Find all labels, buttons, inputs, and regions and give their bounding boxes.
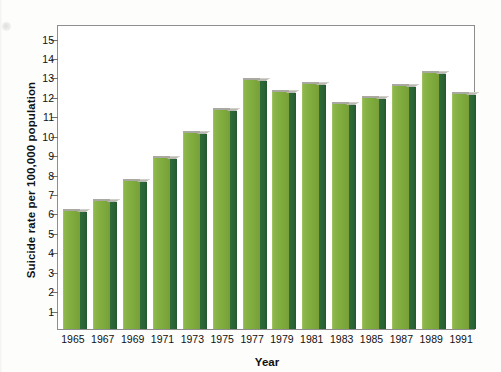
y-axis-tick-label: 14 xyxy=(42,53,54,65)
bar xyxy=(243,78,267,329)
y-axis-tick-label: 9 xyxy=(48,150,54,162)
y-axis-tick-label: 15 xyxy=(42,34,54,46)
x-axis-tick-label: 1987 xyxy=(390,333,413,345)
bar-side-face xyxy=(439,74,446,329)
bar-side-face xyxy=(140,182,147,329)
bar xyxy=(302,82,326,329)
bar-side-face xyxy=(110,202,117,329)
bar-side-face xyxy=(349,105,356,329)
y-axis-tick-label: 1 xyxy=(48,306,54,318)
chart-figure: Suicide rate per 100,000 population 1234… xyxy=(0,0,501,372)
bar-front-face xyxy=(243,78,260,329)
y-axis-tick-label: 10 xyxy=(42,131,54,143)
bar-side-face xyxy=(80,212,87,329)
bar-front-face xyxy=(153,156,170,329)
x-axis-tick-label: 1979 xyxy=(270,333,293,345)
x-axis-tick-label: 1965 xyxy=(61,333,84,345)
bar xyxy=(452,92,476,329)
bar-top-edge xyxy=(332,102,349,104)
bar xyxy=(272,90,296,329)
x-axis-tick-label: 1967 xyxy=(91,333,114,345)
scan-edge-artifact xyxy=(0,0,3,372)
bar xyxy=(213,108,237,329)
bar-top-edge xyxy=(213,108,230,110)
x-axis-tick-label: 1983 xyxy=(330,333,353,345)
bar-front-face xyxy=(362,96,379,329)
bar-side-face xyxy=(200,134,207,329)
y-axis-tick-label: 4 xyxy=(48,247,54,259)
bar-front-face xyxy=(272,90,289,329)
bar xyxy=(392,84,416,329)
bar-front-face xyxy=(63,209,80,329)
bar-top-edge xyxy=(362,96,379,98)
bar xyxy=(422,71,446,329)
bar-top-edge xyxy=(123,179,140,181)
plot-inner xyxy=(58,26,474,329)
bar xyxy=(332,102,356,329)
y-axis-tick-label: 7 xyxy=(48,189,54,201)
bar-top-edge xyxy=(272,90,289,92)
bar xyxy=(123,179,147,329)
bar-top-edge xyxy=(183,131,200,133)
y-axis-tick-label: 13 xyxy=(42,72,54,84)
bar-front-face xyxy=(332,102,349,329)
bar-side-face xyxy=(469,95,476,329)
y-axis-tick-label: 11 xyxy=(43,111,54,123)
bar-top-edge xyxy=(452,92,469,94)
bar-top-edge xyxy=(63,209,80,211)
y-axis-tick-label: 12 xyxy=(42,92,54,104)
y-axis-tick-label: 8 xyxy=(48,170,54,182)
y-axis-tick-label: 2 xyxy=(48,286,54,298)
x-axis-tick-label: 1971 xyxy=(151,333,174,345)
x-axis-tick-label: 1991 xyxy=(449,333,472,345)
bar-side-face xyxy=(409,87,416,329)
y-axis-tick-label: 6 xyxy=(48,208,54,220)
plot-area: 123456789101112131415 196519671969197119… xyxy=(57,25,475,330)
bar-side-face xyxy=(379,99,386,329)
x-axis-tick-label: 1981 xyxy=(300,333,323,345)
y-axis-title: Suicide rate per 100,000 population xyxy=(25,55,37,305)
bar-side-face xyxy=(260,81,267,329)
bar-front-face xyxy=(452,92,469,329)
x-axis-tick-label: 1969 xyxy=(121,333,144,345)
bar-top-edge xyxy=(422,71,439,73)
scan-speck-artifact xyxy=(2,22,11,31)
bar-top-edge xyxy=(302,82,319,84)
bar-top-edge xyxy=(93,199,110,201)
x-axis-tick-label: 1989 xyxy=(420,333,443,345)
y-axis-tick-label: 3 xyxy=(48,267,54,279)
bar-front-face xyxy=(123,179,140,329)
x-axis-tick-label: 1975 xyxy=(211,333,234,345)
bar-front-face xyxy=(93,199,110,329)
bar-series xyxy=(58,26,474,329)
bar xyxy=(153,156,177,329)
bar xyxy=(183,131,207,329)
bar-front-face xyxy=(302,82,319,329)
bar-side-face xyxy=(230,111,237,329)
bar-front-face xyxy=(183,131,200,329)
x-axis-tick-label: 1973 xyxy=(181,333,204,345)
bar xyxy=(63,209,87,329)
bar-top-edge xyxy=(243,78,260,80)
y-axis-tick-label: 5 xyxy=(48,228,54,240)
bar-front-face xyxy=(422,71,439,329)
bar xyxy=(93,199,117,329)
bar-side-face xyxy=(170,159,177,329)
x-axis-title: Year xyxy=(58,356,476,368)
bar xyxy=(362,96,386,329)
x-axis-tick-label: 1977 xyxy=(240,333,263,345)
x-axis-tick-label: 1985 xyxy=(360,333,383,345)
bar-side-face xyxy=(289,93,296,329)
bar-front-face xyxy=(392,84,409,329)
bar-top-edge xyxy=(153,156,170,158)
bar-front-face xyxy=(213,108,230,329)
bar-top-edge xyxy=(392,84,409,86)
bar-side-face xyxy=(319,85,326,329)
